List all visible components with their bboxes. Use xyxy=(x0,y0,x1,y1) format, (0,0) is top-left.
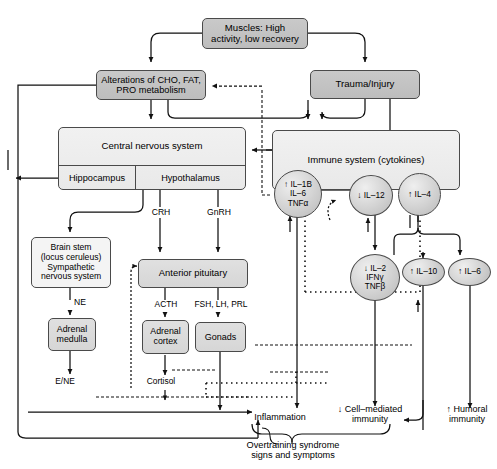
node-adrenal-cortex[interactable]: Adrenal cortex xyxy=(142,320,189,354)
node-hippocampus[interactable]: Hippocampus xyxy=(59,166,136,190)
cytokine-il2-line2: IFNγ xyxy=(364,273,386,282)
edge-label-fsh-lh-prl: FSH, LH, PRL xyxy=(188,300,254,309)
edge-label-gnrh: GnRH xyxy=(200,208,238,218)
cytokine-il2-line1: ↓ IL–2 xyxy=(364,264,386,273)
node-adrenal-cortex-line2: cortex xyxy=(150,337,180,347)
node-muscles-line1: Muscles: High xyxy=(211,23,299,34)
outcome-overtraining-line2: signs and symptoms xyxy=(228,450,358,460)
outcome-cell-mediated-immunity: ↓ Cell–mediated immunity xyxy=(326,404,414,424)
cytokine-il1b-line2: IL–6 xyxy=(284,189,312,198)
edge-label-cortisol: Cortisol xyxy=(140,377,182,386)
node-alterations-metabolism[interactable]: Alterations of CHO, FAT, PRO metabolism xyxy=(96,70,206,100)
cytokine-il1b-line1: ↑ IL–1B xyxy=(284,180,312,189)
node-alterations-line1: Alterations of CHO, FAT, xyxy=(101,75,200,85)
cytokine-il6[interactable]: ↑ IL–6 xyxy=(448,258,491,286)
node-trauma-injury[interactable]: Trauma/Injury xyxy=(310,70,420,99)
outcome-cell-mediated-line2: immunity xyxy=(326,414,414,424)
cytokine-il1b[interactable]: ↑ IL–1B IL–6 TNFα xyxy=(274,170,322,218)
node-brainstem-line4: nervous system xyxy=(41,272,102,282)
diagram-canvas: Muscles: High activity, low recovery Alt… xyxy=(0,0,497,469)
node-muscles[interactable]: Muscles: High activity, low recovery xyxy=(202,18,308,49)
node-central-nervous-system[interactable]: Central nervous system Hippocampus Hypot… xyxy=(58,127,246,190)
outcome-cell-mediated-line1: ↓ Cell–mediated xyxy=(326,404,414,414)
node-muscles-line2: activity, low recovery xyxy=(211,34,299,45)
cytokine-il12[interactable]: ↓ IL–12 xyxy=(349,175,393,216)
node-adrenal-medulla[interactable]: Adrenal medulla xyxy=(48,318,96,351)
edge-label-acth: ACTH xyxy=(148,300,184,309)
node-alterations-line2: PRO metabolism xyxy=(101,85,200,95)
node-adrenal-medulla-line2: medulla xyxy=(57,335,88,345)
outcome-overtraining-syndrome: Overtraining syndrome signs and symptoms xyxy=(228,440,358,461)
outcome-humoral-line1: ↑ Humoral xyxy=(438,404,496,414)
node-anterior-pituitary[interactable]: Anterior pituitary xyxy=(138,259,248,288)
edge-label-ne: NE xyxy=(74,298,96,308)
node-gonads[interactable]: Gonads xyxy=(195,322,246,352)
cytokine-il2[interactable]: ↓ IL–2 IFNγ TNFβ xyxy=(350,254,400,301)
cytokine-il4[interactable]: ↑ IL–4 xyxy=(398,173,441,216)
edge-label-crh: CRH xyxy=(146,208,176,218)
node-cns-title: Central nervous system xyxy=(59,128,245,166)
node-hypothalamus[interactable]: Hypothalamus xyxy=(136,166,245,190)
diagram-connectors xyxy=(0,0,497,469)
edge-label-e-ne: E/NE xyxy=(48,377,82,386)
cytokine-il1b-line3: TNFα xyxy=(284,199,312,208)
outcome-humoral-line2: immunity xyxy=(438,414,496,424)
node-brain-stem[interactable]: Brain stem (locus ceruleus) Sympathetic … xyxy=(31,237,111,288)
outcome-overtraining-line1: Overtraining syndrome xyxy=(228,440,358,450)
cytokine-il10[interactable]: ↑ IL–10 xyxy=(402,258,445,286)
outcome-humoral-immunity: ↑ Humoral immunity xyxy=(438,404,496,424)
outcome-inflammation: Inflammation xyxy=(244,412,316,422)
cytokine-il2-line3: TNFβ xyxy=(364,282,386,291)
